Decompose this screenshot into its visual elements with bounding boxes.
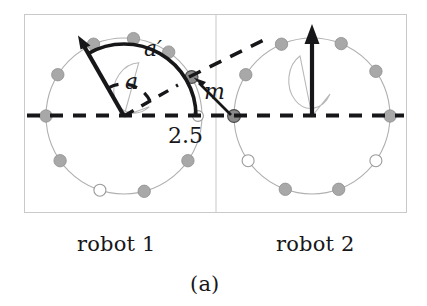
sensor-dot bbox=[240, 69, 252, 81]
robot2-group bbox=[228, 24, 397, 196]
sensor-dot bbox=[384, 110, 396, 122]
sensor-dot-empty bbox=[242, 155, 254, 167]
distance-m-label: m bbox=[204, 79, 225, 104]
sensor-dot bbox=[275, 38, 287, 50]
sensor-dot bbox=[138, 185, 150, 197]
robot1-caption: robot 1 bbox=[77, 232, 156, 256]
bearing-dashed-line bbox=[189, 40, 264, 77]
sensor-dot bbox=[279, 183, 291, 195]
sensor-dot-empty bbox=[94, 184, 106, 196]
robot2-caption: robot 2 bbox=[276, 232, 355, 256]
sensor-dot bbox=[182, 155, 194, 167]
distance-value-label: 2.5 bbox=[168, 123, 203, 148]
figure-container: a a′ bbox=[0, 0, 427, 306]
angle-a-prime-label: a′ bbox=[144, 36, 162, 61]
sensor-dot bbox=[335, 37, 347, 49]
angle-a-label: a bbox=[125, 69, 138, 94]
robot-angle-diagram: a a′ bbox=[0, 0, 427, 306]
sensor-dot bbox=[370, 65, 382, 77]
sensor-dot bbox=[52, 69, 64, 81]
sensor-dot bbox=[54, 155, 66, 167]
sensor-dot bbox=[333, 183, 345, 195]
robot2-body-teardrop bbox=[289, 56, 330, 116]
subfigure-caption: (a) bbox=[190, 272, 220, 296]
sensor-dot-empty bbox=[370, 155, 382, 167]
